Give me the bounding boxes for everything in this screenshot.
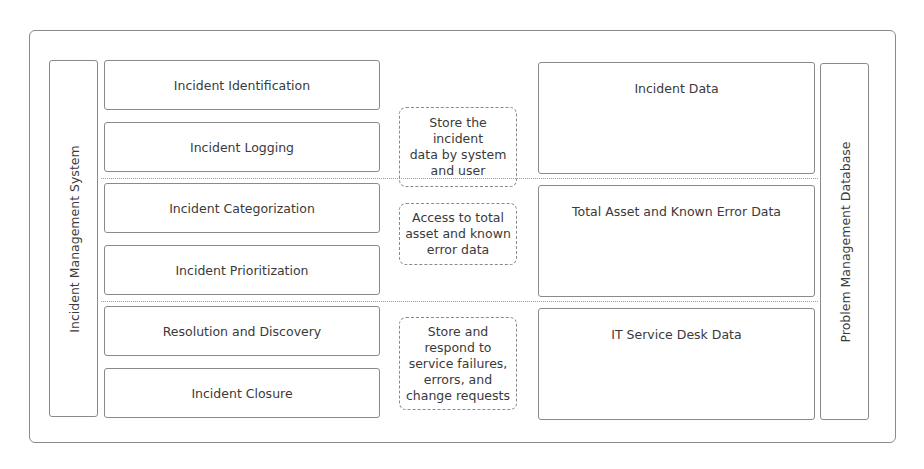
step-label: Incident Closure [191, 386, 292, 401]
note-store-respond-service-failures: Store and respond to service failures, e… [399, 317, 517, 410]
step-label: Incident Identification [174, 78, 310, 93]
step-incident-identification: Incident Identification [104, 60, 380, 110]
note-access-asset-error-data: Access to total asset and known error da… [399, 203, 517, 265]
step-incident-categorization: Incident Categorization [104, 183, 380, 233]
row-divider-2 [101, 301, 818, 302]
note-store-incident-data: Store the incident data by system and us… [399, 107, 517, 187]
step-incident-logging: Incident Logging [104, 122, 380, 172]
data-box-label: Total Asset and Known Error Data [572, 204, 781, 219]
step-resolution-and-discovery: Resolution and Discovery [104, 306, 380, 356]
data-box-incident-data: Incident Data [538, 62, 815, 174]
problem-management-database-label: Problem Management Database [837, 141, 852, 342]
step-label: Resolution and Discovery [163, 324, 322, 339]
data-box-label: Incident Data [634, 81, 718, 96]
data-box-it-service-desk: IT Service Desk Data [538, 308, 815, 420]
incident-management-system-label: Incident Management System [66, 145, 81, 332]
data-box-total-asset-known-error: Total Asset and Known Error Data [538, 185, 815, 297]
step-label: Incident Prioritization [175, 263, 308, 278]
step-incident-prioritization: Incident Prioritization [104, 245, 380, 295]
step-incident-closure: Incident Closure [104, 368, 380, 418]
incident-management-system-bar: Incident Management System [49, 60, 98, 417]
step-label: Incident Categorization [169, 201, 315, 216]
row-divider-1 [101, 178, 818, 179]
step-label: Incident Logging [190, 140, 294, 155]
problem-management-database-bar: Problem Management Database [820, 63, 869, 420]
data-box-label: IT Service Desk Data [611, 327, 741, 342]
